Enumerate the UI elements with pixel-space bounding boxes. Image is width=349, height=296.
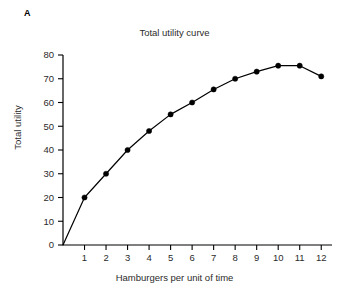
data-point-marker — [319, 74, 324, 79]
data-point-markers — [82, 63, 324, 200]
y-tick-label: 80 — [43, 49, 54, 60]
x-tick-label: 6 — [189, 252, 194, 263]
y-tick-label: 70 — [43, 73, 54, 84]
x-tick-label: 3 — [125, 252, 130, 263]
x-tick-label: 7 — [211, 252, 216, 263]
x-axis-ticks-group: 123456789101112 — [82, 245, 327, 263]
y-tick-label: 40 — [43, 144, 54, 155]
data-point-marker — [211, 87, 216, 92]
data-point-marker — [276, 63, 281, 68]
y-tick-label: 30 — [43, 168, 54, 179]
x-tick-label: 8 — [233, 252, 238, 263]
data-point-marker — [168, 112, 173, 117]
x-tick-label: 12 — [316, 252, 327, 263]
x-tick-label: 9 — [254, 252, 259, 263]
data-point-marker — [233, 76, 238, 81]
total-utility-plot: 01020304050607080 123456789101112 — [0, 0, 349, 296]
x-tick-label: 4 — [146, 252, 151, 263]
x-tick-label: 2 — [103, 252, 108, 263]
data-point-marker — [146, 128, 151, 133]
y-tick-label: 10 — [43, 216, 54, 227]
data-point-marker — [254, 69, 259, 74]
data-point-marker — [103, 171, 108, 176]
y-tick-label: 0 — [49, 239, 54, 250]
x-tick-label: 10 — [273, 252, 284, 263]
x-tick-label: 1 — [82, 252, 87, 263]
y-tick-label: 20 — [43, 192, 54, 203]
data-point-marker — [82, 195, 87, 200]
data-point-marker — [297, 63, 302, 68]
x-tick-label: 11 — [295, 252, 305, 263]
x-tick-label: 5 — [168, 252, 173, 263]
y-tick-label: 50 — [43, 121, 54, 132]
data-point-marker — [190, 100, 195, 105]
figure-panel: A Total utility curve Total utility Hamb… — [0, 0, 349, 296]
y-axis-ticks-group: 01020304050607080 — [43, 49, 63, 250]
data-point-marker — [125, 147, 130, 152]
utility-curve-line — [63, 66, 321, 245]
y-tick-label: 60 — [43, 97, 54, 108]
